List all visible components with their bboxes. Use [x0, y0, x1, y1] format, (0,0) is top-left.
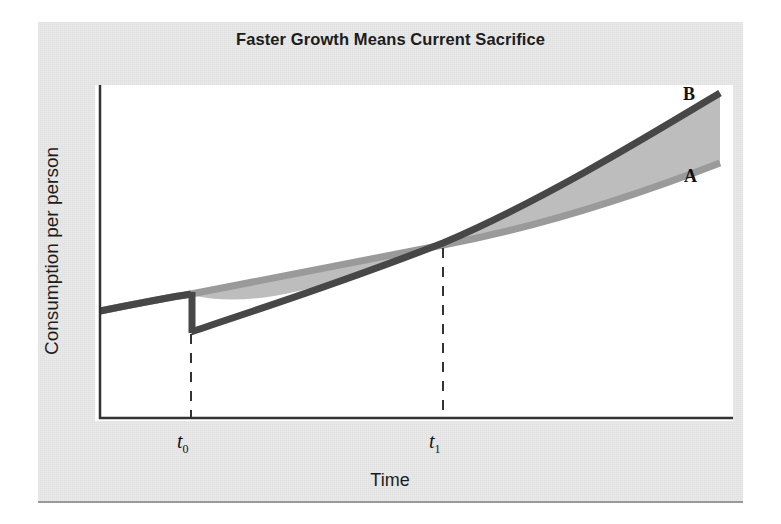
y-axis-label: Consumption per person [41, 136, 63, 366]
figure-root: Faster Growth Means Current Sacrifice Co… [0, 0, 781, 524]
curve-a-label: A [684, 166, 697, 187]
x-tick-label-t0: t0 [177, 430, 189, 457]
curve-b-pre-t0 [100, 294, 191, 311]
x-tick-label-t1: t1 [429, 430, 441, 457]
chart-canvas [0, 0, 781, 524]
x-axis-label: Time [290, 470, 490, 491]
tick-t1-sub: 1 [435, 442, 441, 456]
curve-b-label: B [683, 84, 695, 105]
tick-t0-sub: 0 [183, 442, 189, 456]
shaded-area-between-curves [191, 95, 720, 300]
